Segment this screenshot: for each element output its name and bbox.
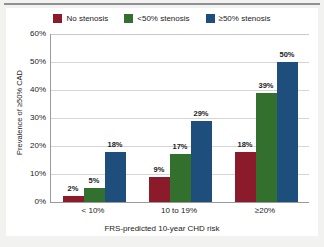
- bar: 39%: [256, 93, 277, 202]
- legend-label-lt50-stenosis: <50% stenosis: [137, 15, 189, 23]
- legend-swatch-gte50-stenosis: [206, 14, 215, 23]
- bar-value-label: 18%: [237, 141, 252, 149]
- bar: 18%: [235, 152, 256, 202]
- bar-group: 18%39%50%: [235, 34, 298, 202]
- legend-swatch-lt50-stenosis: [124, 14, 133, 23]
- legend-label-no-stenosis: No stenosis: [66, 15, 108, 23]
- plot-area: 2%5%18%9%17%29%18%39%50%: [50, 34, 309, 203]
- y-axis-tick-label: 40%: [18, 86, 46, 94]
- legend-item-lt50-stenosis: <50% stenosis: [124, 14, 189, 23]
- bar: 29%: [191, 121, 212, 202]
- x-axis-title: FRS-predicted 10-year CHD risk: [6, 224, 318, 233]
- y-axis-tick-label: 50%: [18, 58, 46, 66]
- chart-legend: No stenosis <50% stenosis ≥50% stenosis: [6, 14, 318, 23]
- x-axis-tick-labels: < 10%10 to 19%≥20%: [50, 206, 308, 220]
- bar-value-label: 50%: [279, 51, 294, 59]
- bar: 9%: [149, 177, 170, 202]
- bar-value-label: 29%: [193, 110, 208, 118]
- legend-swatch-no-stenosis: [53, 14, 62, 23]
- bar-value-label: 18%: [107, 141, 122, 149]
- legend-item-no-stenosis: No stenosis: [53, 14, 108, 23]
- legend-item-gte50-stenosis: ≥50% stenosis: [206, 14, 271, 23]
- y-axis-tick-labels: 0%10%20%30%40%50%60%: [18, 34, 46, 202]
- y-axis-tick-label: 0%: [18, 198, 46, 206]
- y-axis-tick-label: 10%: [18, 170, 46, 178]
- x-axis-tick-label: 10 to 19%: [147, 206, 211, 215]
- bar: 50%: [277, 62, 298, 202]
- figure-container: No stenosis <50% stenosis ≥50% stenosis …: [0, 0, 324, 247]
- bar-value-label: 5%: [89, 177, 100, 185]
- bar-group: 9%17%29%: [149, 34, 212, 202]
- bar-value-label: 17%: [172, 143, 187, 151]
- bar-group: 2%5%18%: [63, 34, 126, 202]
- bar: 2%: [63, 196, 84, 202]
- top-divider-rule: [4, 3, 320, 5]
- y-axis-tick-label: 20%: [18, 142, 46, 150]
- bar-value-label: 39%: [258, 82, 273, 90]
- y-axis-tick-label: 60%: [18, 30, 46, 38]
- x-axis-tick-label: < 10%: [61, 206, 125, 215]
- y-axis-tick-label: 30%: [18, 114, 46, 122]
- bar-value-label: 9%: [154, 166, 165, 174]
- bar: 5%: [84, 188, 105, 202]
- plot-wrapper: Prevalence of ≥50% CAD 0%10%20%30%40%50%…: [6, 34, 318, 236]
- x-axis-tick-label: ≥20%: [233, 206, 297, 215]
- bar: 18%: [105, 152, 126, 202]
- bar-value-label: 2%: [68, 185, 79, 193]
- legend-label-gte50-stenosis: ≥50% stenosis: [219, 15, 271, 23]
- chart-card: No stenosis <50% stenosis ≥50% stenosis …: [6, 8, 318, 236]
- bar: 17%: [170, 154, 191, 202]
- bar-groups: 2%5%18%9%17%29%18%39%50%: [51, 34, 309, 202]
